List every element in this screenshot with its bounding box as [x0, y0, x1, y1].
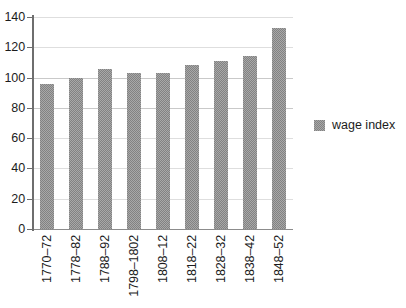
bar-slot [235, 17, 264, 229]
legend-label: wage index [332, 119, 395, 132]
x-axis-labels: 1770–72 1778–82 1788–92 1798–1802 1808–1… [33, 232, 293, 308]
legend: wage index [314, 119, 395, 132]
bar-slot [62, 17, 91, 229]
x-label-slot: 1770–72 [33, 232, 62, 308]
x-tick-label: 1808–12 [157, 235, 170, 283]
bar-slot [206, 17, 235, 229]
x-tick-label: 1788–92 [99, 235, 112, 283]
y-tick-label: 140 [0, 11, 25, 24]
bar[interactable] [156, 73, 170, 229]
x-label-slot: 1808–12 [149, 232, 178, 308]
x-tick-label: 1798–1802 [128, 235, 141, 297]
x-tick-label: 1828–32 [215, 235, 228, 283]
x-tick-label: 1770–72 [41, 235, 54, 283]
y-tick-label: 120 [0, 41, 25, 54]
bar[interactable] [40, 84, 54, 229]
y-axis-labels: 140 120 100 80 60 40 20 0 [0, 0, 25, 308]
bar[interactable] [243, 56, 257, 229]
x-label-slot: 1798–1802 [120, 232, 149, 308]
bar[interactable] [272, 28, 286, 229]
y-tick-label: 80 [0, 102, 25, 115]
x-label-slot: 1788–92 [91, 232, 120, 308]
bar-slot [91, 17, 120, 229]
y-tick-label: 0 [0, 223, 25, 236]
bar-slot [33, 17, 62, 229]
bar[interactable] [185, 65, 199, 229]
x-tick-label: 1848–52 [273, 235, 286, 283]
bar-series-wage-index [33, 17, 293, 229]
y-tick-label: 40 [0, 162, 25, 175]
bar-slot [264, 17, 293, 229]
bar[interactable] [98, 69, 112, 230]
x-tick-label: 1778–82 [70, 235, 83, 283]
x-label-slot: 1818–22 [177, 232, 206, 308]
bar[interactable] [214, 61, 228, 229]
bar-chart: 140 120 100 80 60 40 20 0 [0, 0, 406, 308]
x-tick-label: 1838–42 [244, 235, 257, 283]
bar[interactable] [69, 78, 83, 229]
y-tick-label: 60 [0, 132, 25, 145]
x-label-slot: 1848–52 [264, 232, 293, 308]
x-tick-label: 1818–22 [186, 235, 199, 283]
legend-swatch-icon [314, 120, 325, 131]
bar-slot [177, 17, 206, 229]
y-tick-label: 100 [0, 72, 25, 85]
x-label-slot: 1778–82 [62, 232, 91, 308]
y-tick-label: 20 [0, 193, 25, 206]
x-label-slot: 1828–32 [206, 232, 235, 308]
x-label-slot: 1838–42 [235, 232, 264, 308]
bar-slot [149, 17, 178, 229]
y-tick-mark [27, 229, 34, 230]
bar[interactable] [127, 73, 141, 229]
x-axis-line [33, 229, 293, 230]
bar-slot [120, 17, 149, 229]
